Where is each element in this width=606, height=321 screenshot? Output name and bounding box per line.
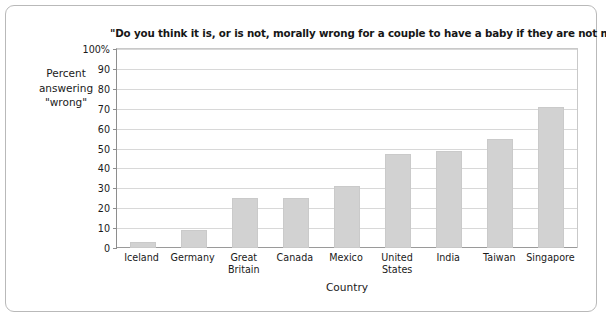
- y-axis-title-line-1: Percent: [30, 66, 102, 81]
- bar: [130, 242, 156, 248]
- bar: [181, 230, 207, 248]
- x-axis-tick-labels: IcelandGermanyGreatBritainCanadaMexicoUn…: [116, 252, 578, 282]
- y-axis-title: Percent answering "wrong": [30, 66, 102, 110]
- x-axis-tick-label: Singapore: [518, 252, 582, 264]
- x-axis-title: Country: [116, 281, 578, 293]
- bar: [385, 154, 411, 248]
- chart-figure: "Do you think it is, or is not, morally …: [0, 0, 606, 321]
- bar: [436, 151, 462, 249]
- bar: [334, 186, 360, 248]
- bar: [283, 198, 309, 248]
- bar: [487, 139, 513, 248]
- x-axis-tick-label-line: States: [365, 264, 429, 276]
- y-axis-title-line-3: "wrong": [30, 95, 102, 110]
- plot-area: 0102030405060708090100%: [116, 48, 578, 248]
- y-axis-title-line-2: answering: [30, 81, 102, 96]
- y-axis-tick-mark: [113, 248, 117, 249]
- bar-series: [117, 49, 577, 248]
- bar: [538, 107, 564, 248]
- chart-title: "Do you think it is, or is not, morally …: [110, 27, 590, 39]
- bar: [232, 198, 258, 248]
- y-axis-tick-label: 100%: [83, 44, 117, 55]
- x-axis-tick-label-line: Britain: [212, 264, 276, 276]
